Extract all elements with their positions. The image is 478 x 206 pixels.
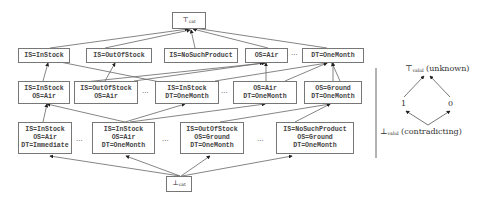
node-line: OS=Air bbox=[112, 134, 136, 142]
ellipsis: ... bbox=[221, 87, 228, 95]
row3-node-instock-air-onemonth: IS=InStock OS=Air DT=OneMonth bbox=[92, 122, 155, 154]
row2-node-air-onemonth: OS=Air DT=OneMonth bbox=[233, 81, 297, 104]
node-line: OS=Ground bbox=[297, 134, 333, 142]
row1-node-is-nosuchproduct: IS=NoSuchProduct bbox=[164, 48, 238, 63]
node-line: DT=OneMonth bbox=[311, 52, 355, 60]
node-line: IS=InStock bbox=[24, 85, 64, 93]
row1-node-os-air: OS=Air bbox=[245, 48, 288, 63]
bottom-cat-node: ⊥cat bbox=[166, 176, 192, 192]
node-line: DT=OneMonth bbox=[190, 142, 234, 150]
node-line: IS=NoSuchProduct bbox=[283, 126, 346, 134]
node-line: OS=Air bbox=[32, 93, 56, 101]
node-line: DT=Immediate bbox=[21, 142, 68, 150]
legend-top-subscript: valid bbox=[413, 68, 424, 73]
row3-node-instock-air-immediate: IS=InStock OS=Air DT=Immediate bbox=[18, 122, 72, 154]
node-line: OS=Air bbox=[253, 85, 277, 93]
bottom-subscript: cat bbox=[179, 182, 186, 187]
node-line: IS=InStock bbox=[25, 126, 65, 134]
top-cat-node: ⊤cat bbox=[172, 12, 206, 29]
node-line: OS=Air bbox=[94, 93, 118, 101]
node-line: IS=InStock bbox=[24, 52, 64, 60]
node-line: IS=OutOfStock bbox=[186, 126, 237, 134]
legend-bottom: ⊥valid (contradicting) bbox=[380, 127, 462, 136]
node-line: DT=OneMonth bbox=[311, 93, 355, 101]
top-symbol: ⊤ bbox=[182, 16, 189, 24]
legend-top: ⊤valid (unknown) bbox=[405, 64, 469, 73]
node-line: IS=NoSuchProduct bbox=[169, 52, 232, 60]
row2-node-ground-onemonth: OS=Ground DT=OneMonth bbox=[304, 81, 362, 104]
node-line: IS=InStock bbox=[104, 126, 144, 134]
node-line: OS=Ground bbox=[194, 134, 230, 142]
ellipsis: ... bbox=[257, 135, 264, 143]
legend-bottom-symbol: ⊥ bbox=[380, 127, 388, 136]
row1-node-dt-onemonth: DT=OneMonth bbox=[302, 48, 364, 63]
node-line: DT=OneMonth bbox=[243, 93, 287, 101]
top-subscript: cat bbox=[189, 19, 196, 24]
node-line: DT=OneMonth bbox=[102, 142, 146, 150]
node-line: OS=Air bbox=[255, 52, 279, 60]
node-line: IS=InStock bbox=[167, 85, 207, 93]
row2-node-outofstock-air: IS=OutOfStock OS=Air bbox=[74, 81, 138, 104]
legend-value-1: 1 bbox=[401, 99, 406, 108]
row3-node-nosuchproduct-ground-onemonth: IS=NoSuchProduct OS=Ground DT=OneMonth bbox=[276, 122, 354, 154]
legend-top-symbol: ⊤ bbox=[405, 64, 413, 73]
legend-top-label: (unknown) bbox=[426, 64, 469, 73]
node-line: OS=Air bbox=[33, 134, 57, 142]
ellipsis: ... bbox=[76, 135, 83, 143]
bottom-symbol: ⊥ bbox=[172, 179, 179, 187]
row2-node-instock-air: IS=InStock OS=Air bbox=[18, 81, 70, 104]
node-line: OS=Ground bbox=[315, 85, 351, 93]
ellipsis: ... bbox=[142, 87, 149, 95]
node-line: IS=OutOfStock bbox=[80, 85, 131, 93]
legend-bottom-subscript: valid bbox=[388, 131, 399, 136]
node-line: IS=OutOfStock bbox=[93, 52, 144, 60]
row2-node-instock-onemonth: IS=InStock DT=OneMonth bbox=[155, 81, 219, 104]
node-line: DT=OneMonth bbox=[293, 142, 337, 150]
node-line: DT=OneMonth bbox=[165, 93, 209, 101]
legend-value-0: 0 bbox=[448, 99, 453, 108]
row3-node-outofstock-ground-onemonth: IS=OutOfStock OS=Ground DT=OneMonth bbox=[180, 122, 244, 154]
ellipsis: ... bbox=[291, 49, 298, 57]
legend-bottom-label: (contradicting) bbox=[401, 127, 462, 136]
ellipsis: ... bbox=[162, 135, 169, 143]
row1-node-is-outofstock: IS=OutOfStock bbox=[86, 48, 152, 63]
row1-node-is-instock: IS=InStock bbox=[18, 48, 70, 63]
